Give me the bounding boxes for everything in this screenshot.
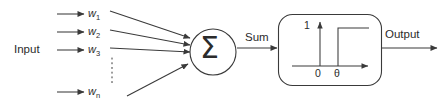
weight-label-3-name: w xyxy=(88,43,96,55)
output-label: Output xyxy=(385,29,420,41)
sum-label: Sum xyxy=(245,32,269,44)
weight-label-2-subscript: 2 xyxy=(96,31,100,40)
weight-connection-n xyxy=(127,64,188,96)
weight-label-3-subscript: 3 xyxy=(96,49,100,58)
weight-label-2: w2 xyxy=(88,26,100,40)
weight-label-2-name: w xyxy=(88,25,96,37)
weight-label-n: wn xyxy=(88,86,100,100)
weight-label-1: w1 xyxy=(88,8,100,22)
weight-label-1-name: w xyxy=(88,7,96,19)
weight-label-3: w3 xyxy=(88,44,100,58)
input-label: Input xyxy=(14,44,40,56)
weight-connection-2 xyxy=(110,30,190,45)
weight-connection-1 xyxy=(110,11,190,38)
plot-threshold-label: θ xyxy=(334,68,340,79)
neuron-diagram-canvas: Input w1 w2 w3 wn Σ Sum 1 0 θ Output xyxy=(0,0,442,109)
weight-label-1-subscript: 1 xyxy=(96,13,100,22)
activation-block xyxy=(279,15,382,86)
plot-y-tick-label: 1 xyxy=(304,20,310,31)
sigma-symbol: Σ xyxy=(200,33,219,63)
weight-label-n-name: w xyxy=(88,85,96,97)
weight-connection-3 xyxy=(110,48,190,52)
plot-origin-label: 0 xyxy=(315,68,321,79)
weight-label-n-subscript: n xyxy=(96,91,100,100)
diagram-vector-layer xyxy=(0,0,442,109)
